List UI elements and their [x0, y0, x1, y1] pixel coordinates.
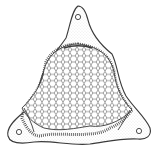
ocellus-top-icon [75, 14, 80, 19]
ocellus-bottom-right-icon [136, 128, 141, 133]
ocellus-bottom-left-icon [16, 129, 21, 134]
diatom-illustration [0, 0, 156, 158]
